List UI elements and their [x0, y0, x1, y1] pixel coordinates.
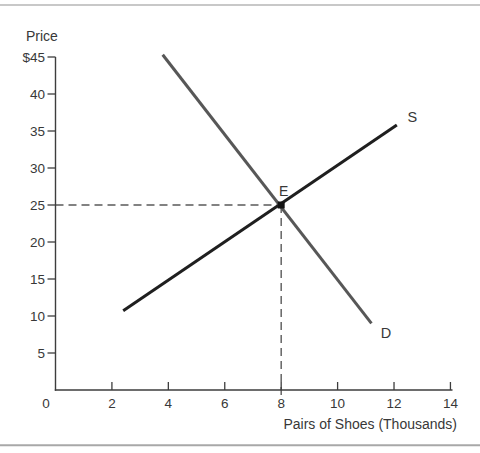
- x-axis-tick-label: 12: [387, 396, 402, 411]
- supply-demand-figure: $4540353025201510524681012140PricePairs …: [0, 0, 480, 453]
- demand-label: D: [381, 325, 391, 341]
- x-axis-tick-label: 14: [443, 396, 459, 411]
- x-axis-tick-label: 6: [221, 396, 229, 411]
- y-axis-tick-label: 30: [30, 161, 45, 176]
- y-axis-tick-label: 40: [30, 87, 45, 102]
- equilibrium-marker: [278, 202, 285, 209]
- price-axis-label: Price: [26, 28, 58, 44]
- y-axis-tick-label: 5: [37, 346, 45, 361]
- y-axis-tick-label: 35: [30, 124, 45, 139]
- supply-demand-chart-svg: $4540353025201510524681012140PricePairs …: [0, 0, 480, 453]
- origin-label: 0: [42, 396, 50, 411]
- x-axis-tick-label: 4: [165, 396, 173, 411]
- equilibrium-label: E: [279, 183, 288, 199]
- y-axis-tick-label: 20: [30, 235, 45, 250]
- supply-line: [123, 125, 397, 311]
- x-axis-tick-label: 2: [108, 396, 116, 411]
- demand-line: [163, 55, 372, 324]
- y-axis-tick-label: 25: [30, 198, 45, 213]
- y-axis-tick-label: 15: [30, 272, 45, 287]
- y-axis-tick-label: $45: [22, 50, 45, 65]
- x-axis-title: Pairs of Shoes (Thousands): [283, 416, 457, 432]
- x-axis-tick-label: 10: [330, 396, 345, 411]
- supply-label: S: [407, 109, 417, 125]
- y-axis-tick-label: 10: [30, 309, 45, 324]
- x-axis-tick-label: 8: [277, 396, 285, 411]
